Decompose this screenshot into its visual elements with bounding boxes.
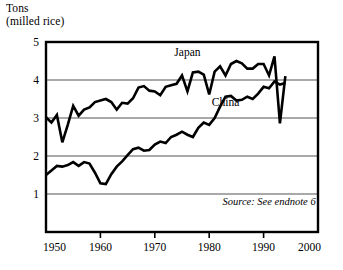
series-japan-line — [46, 56, 285, 142]
svg-text:1980: 1980 — [198, 241, 221, 253]
svg-text:2: 2 — [33, 150, 39, 162]
svg-text:1960: 1960 — [89, 241, 112, 253]
source-note: Source: See endnote 6 — [222, 196, 316, 207]
x-axis-tick-labels: 195019601970198019902000 — [43, 241, 321, 253]
svg-text:4: 4 — [33, 74, 39, 86]
chart-annotations: JapanChinaSource: See endnote 6 — [174, 46, 316, 206]
chart-plot-area: 195019601970198019902000 12345 JapanChin… — [0, 0, 343, 270]
series-label-japan: Japan — [174, 46, 200, 59]
svg-text:1970: 1970 — [143, 241, 166, 253]
svg-text:2000: 2000 — [298, 241, 321, 253]
svg-text:5: 5 — [33, 36, 39, 48]
svg-text:3: 3 — [33, 112, 39, 124]
svg-text:1: 1 — [33, 188, 39, 200]
rice-yield-chart: Tons (milled rice) 195019601970198019902… — [0, 0, 343, 270]
y-axis-tick-labels: 12345 — [33, 36, 39, 200]
svg-text:1950: 1950 — [43, 241, 66, 253]
svg-text:1990: 1990 — [252, 241, 275, 253]
series-label-china: China — [212, 96, 239, 108]
series-china-line — [46, 82, 285, 185]
